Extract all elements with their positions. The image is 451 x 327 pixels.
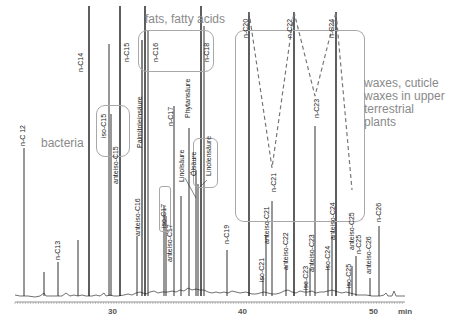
- label-n-c22: n-C22: [286, 19, 293, 38]
- label-anteiso-c25: anteiso-C25: [348, 212, 355, 250]
- label-n-c25: n-C25: [355, 235, 362, 254]
- label-iso-c15: iso-C15: [100, 114, 107, 138]
- label-phytansaeure: Phytansäure: [184, 79, 191, 118]
- waxes-label-2: waxes in upper: [364, 89, 445, 103]
- label-anteiso-c17: anteiso-C17: [166, 224, 173, 262]
- label-n-c15: n-C15: [123, 43, 130, 62]
- waxes-label-1: waxes, cuticle: [364, 76, 439, 90]
- label-oelsaeure: Ölsäure: [190, 151, 197, 176]
- x-tick-30: 30: [108, 307, 117, 316]
- label-anteiso-c26: anteiso-C26: [365, 236, 372, 274]
- label-n-c17: n-C17: [167, 107, 174, 126]
- label-n-c26: n-C26: [375, 203, 382, 222]
- label-n-c13: n-C13: [54, 241, 61, 260]
- label-iso-c24: iso-C24: [324, 246, 331, 270]
- waxes-label-3: terrestrial: [364, 102, 414, 116]
- label-anteiso-c16: anteiso-C16: [134, 198, 141, 236]
- label-iso-c25: iso-C25: [345, 264, 352, 288]
- waxes-box-lower: [235, 60, 365, 222]
- x-tick-50: 50: [369, 307, 378, 316]
- label-n-c20: n-C20: [242, 19, 249, 38]
- x-axis-unit: min: [398, 307, 412, 316]
- waxes-label-4: plants: [364, 115, 396, 129]
- label-n-c23: n-C23: [313, 99, 320, 118]
- label-iso-c21: iso-C21: [258, 258, 265, 282]
- label-n-c14: n-C14: [77, 53, 84, 72]
- label-n-c21: n-C21: [270, 173, 277, 192]
- label-linolsaeure: Linolsäure: [178, 150, 185, 182]
- label-linolensaeure: Linolensäure: [205, 136, 212, 176]
- label-palmitoleinsaeure: Palmitoleinsäure: [136, 96, 143, 148]
- label-anteiso-c15: anteiso-C15: [112, 146, 119, 184]
- label-n-c12: n-C 12: [19, 125, 26, 146]
- bacteria-label: bacteria: [41, 136, 84, 150]
- chromatogram-plot: [0, 0, 451, 327]
- fats-label: fats, fatty acids: [145, 12, 225, 26]
- label-n-c19: n-C19: [223, 225, 230, 244]
- label-n-c18: n-C18: [203, 43, 210, 62]
- label-anteiso-c23: anteiso-C23: [308, 234, 315, 272]
- label-anteiso-c21: anteiso-C21: [263, 206, 270, 244]
- label-n-c16: n-C16: [152, 43, 159, 62]
- label-n-c24: n-C24: [328, 19, 335, 38]
- x-tick-40: 40: [238, 307, 247, 316]
- label-anteiso-c22: anteiso-C22: [282, 232, 289, 270]
- baseline-trace: [15, 288, 405, 297]
- label-anteiso-c24: anteiso-C24: [329, 202, 336, 240]
